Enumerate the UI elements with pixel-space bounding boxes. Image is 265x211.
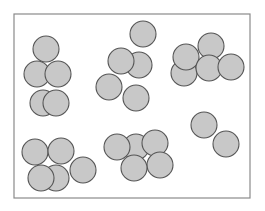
circle xyxy=(121,155,147,181)
circle xyxy=(96,74,122,100)
cluster-top-center xyxy=(96,21,156,111)
cluster-top-left xyxy=(24,36,71,116)
cluster-bottom-left xyxy=(22,138,96,191)
circle xyxy=(22,139,48,165)
cluster-bottom-right xyxy=(191,112,239,157)
circle xyxy=(191,112,217,138)
cluster-bottom-center xyxy=(104,130,173,181)
circle xyxy=(213,131,239,157)
circle xyxy=(218,54,244,80)
circle xyxy=(45,61,71,87)
circle xyxy=(123,85,149,111)
circle xyxy=(33,36,59,62)
circle xyxy=(173,44,199,70)
cluster-top-right xyxy=(171,33,244,86)
circle xyxy=(108,48,134,74)
circle-clusters-diagram xyxy=(0,0,265,211)
circle-clusters xyxy=(22,21,244,191)
circle xyxy=(104,134,130,160)
circle xyxy=(43,90,69,116)
circle xyxy=(130,21,156,47)
circle xyxy=(28,165,54,191)
circle xyxy=(70,157,96,183)
circle xyxy=(48,138,74,164)
circle xyxy=(147,152,173,178)
